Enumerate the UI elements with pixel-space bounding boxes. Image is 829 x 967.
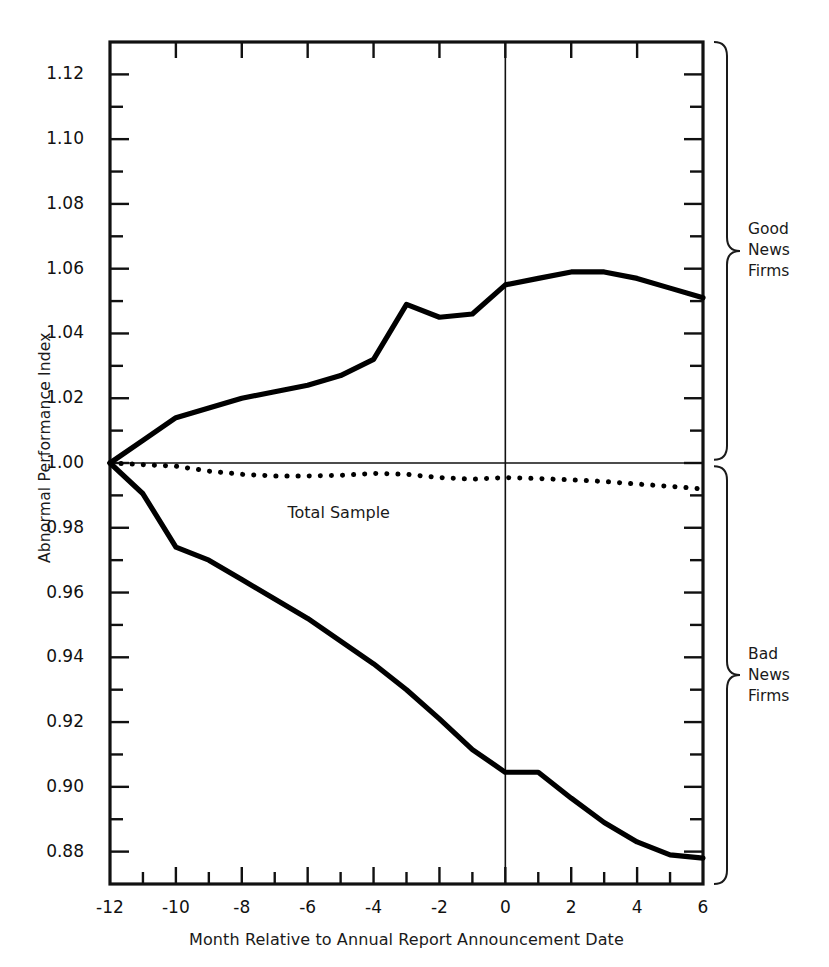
series-line-total-sample [110, 463, 703, 489]
good-news-firms-label-line-2: Firms [748, 261, 790, 282]
y-tick-label-1.12: 1.12 [46, 63, 84, 83]
x-tick-label-0: 0 [475, 897, 535, 917]
x-tick-label--12: -12 [80, 897, 140, 917]
y-tick-label-1.02: 1.02 [46, 387, 84, 407]
y-tick-label-1.00: 1.00 [46, 452, 84, 472]
x-tick-label-4: 4 [607, 897, 667, 917]
y-tick-label-1.04: 1.04 [46, 322, 84, 342]
figure-container: Abnormal Performance Index Month Relativ… [0, 0, 829, 967]
x-tick-label--10: -10 [146, 897, 206, 917]
series-line-good-news-firms [110, 272, 703, 463]
good-news-firms-label-line-1: News [748, 240, 790, 261]
y-tick-label-0.88: 0.88 [46, 841, 84, 861]
bad-news-firms-brace [714, 466, 740, 884]
x-tick-label--4: -4 [344, 897, 404, 917]
good-news-firms-brace [714, 42, 740, 460]
y-tick-label-0.90: 0.90 [46, 776, 84, 796]
series-line-bad-news-firms [110, 463, 703, 858]
x-tick-label--8: -8 [212, 897, 272, 917]
x-tick-label-6: 6 [673, 897, 733, 917]
y-tick-label-0.94: 0.94 [46, 646, 84, 666]
x-tick-label-2: 2 [541, 897, 601, 917]
bad-news-firms-label-line-1: News [748, 665, 790, 686]
y-tick-label-1.10: 1.10 [46, 128, 84, 148]
y-tick-label-0.98: 0.98 [46, 517, 84, 537]
x-tick-label--6: -6 [278, 897, 338, 917]
y-tick-label-0.96: 0.96 [46, 582, 84, 602]
y-tick-label-1.08: 1.08 [46, 193, 84, 213]
bad-news-firms-label-line-2: Firms [748, 686, 790, 707]
y-tick-label-0.92: 0.92 [46, 711, 84, 731]
good-news-firms-label: GoodNewsFirms [748, 219, 790, 282]
y-tick-label-1.06: 1.06 [46, 258, 84, 278]
bad-news-firms-label-line-0: Bad [748, 644, 790, 665]
x-tick-label--2: -2 [409, 897, 469, 917]
x-axis-title: Month Relative to Annual Report Announce… [0, 930, 813, 949]
chart-plot-area [0, 0, 829, 967]
total-sample-annotation: Total Sample [269, 503, 409, 522]
good-news-firms-label-line-0: Good [748, 219, 790, 240]
bad-news-firms-label: BadNewsFirms [748, 644, 790, 707]
